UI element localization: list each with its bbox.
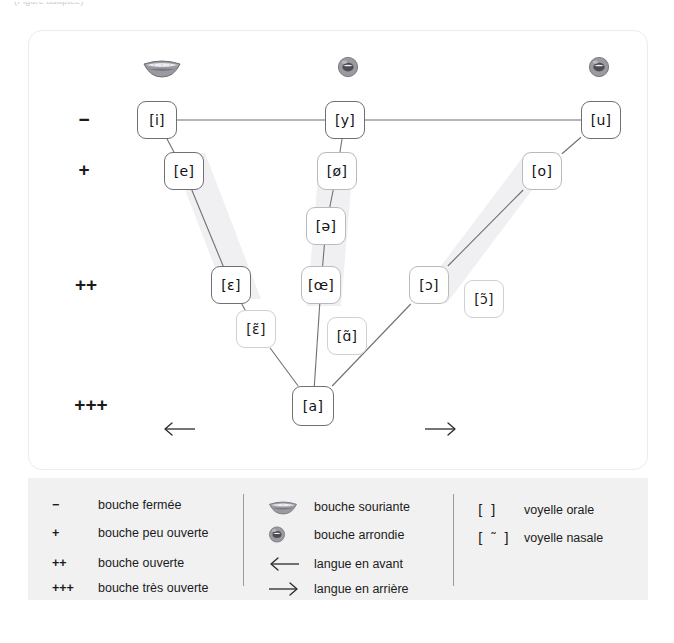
vowel-box[interactable]: [y]: [325, 101, 365, 139]
arrow-right-icon: [268, 581, 314, 597]
legend-row: +++bouche très ouverte: [52, 581, 209, 595]
legend-label: bouche arrondie: [314, 528, 404, 542]
legend-symbol: [ ]: [478, 502, 524, 518]
vowel-link-line: [192, 190, 223, 266]
legend-symbol: ++: [52, 556, 98, 570]
smiling-mouth-icon: [142, 56, 182, 82]
legend-divider: [453, 494, 454, 586]
legend-row: −bouche fermée: [52, 498, 181, 512]
cropped-header-text: (Figure adaptée): [14, 0, 84, 6]
aperture-label: +: [78, 160, 89, 179]
legend-panel: −bouche fermée+bouche peu ouverte++bouch…: [28, 478, 648, 600]
vowel-trapezoid-card: −++++++ [i][e][ɛ][ɛ̃][y][ø][ə][œ][ɑ̃][a]…: [28, 30, 648, 470]
vowel-link-line: [167, 139, 174, 152]
legend-label: bouche peu ouverte: [98, 526, 209, 540]
rounded-mouth-icon: [337, 57, 360, 82]
legend-label: langue en arrière: [314, 582, 409, 596]
vowel-link-line: [330, 190, 333, 207]
legend-row: +bouche peu ouverte: [52, 526, 209, 540]
vowel-box[interactable]: [ø]: [317, 152, 357, 190]
legend-label: bouche fermée: [98, 498, 181, 512]
vowel-link-line: [314, 304, 319, 386]
vowel-chart-page: (Figure adaptée) −++++++ [i][e][ɛ][ɛ: [0, 0, 674, 643]
vowel-link-line: [562, 137, 581, 153]
vowel-link-line: [340, 139, 342, 152]
legend-symbol: [ ˜ ]: [478, 530, 524, 546]
aperture-label: −: [78, 110, 89, 129]
vowel-box[interactable]: [ɛ]: [211, 266, 251, 304]
vowel-box[interactable]: [a]: [292, 386, 334, 426]
legend-row: [ ˜ ]voyelle nasale: [478, 530, 603, 546]
vowel-box[interactable]: [ɑ̃]: [327, 317, 367, 355]
legend-symbol: −: [52, 498, 98, 512]
vowel-link-line: [270, 348, 298, 386]
legend-row: bouche souriante: [268, 498, 410, 515]
smiling-mouth-icon: [268, 498, 314, 515]
legend-label: bouche très ouverte: [98, 581, 209, 595]
vowel-box[interactable]: [ɔ]: [409, 266, 449, 304]
arrow-left-icon: [268, 556, 314, 572]
vowel-box[interactable]: [ɛ̃]: [236, 310, 276, 348]
legend-symbol: +: [52, 526, 98, 540]
vowel-box[interactable]: [e]: [164, 152, 204, 190]
vowel-box[interactable]: [u]: [581, 101, 621, 139]
vowel-box[interactable]: [œ]: [301, 266, 341, 304]
legend-label: langue en avant: [314, 557, 403, 571]
aperture-label: +++: [74, 395, 107, 414]
legend-label: voyelle orale: [524, 503, 594, 517]
legend-label: voyelle nasale: [524, 531, 603, 545]
vowel-box[interactable]: [o]: [522, 152, 562, 190]
legend-label: bouche souriante: [314, 500, 410, 514]
legend-symbol: +++: [52, 581, 98, 595]
vowel-box[interactable]: [ɔ̃]: [464, 280, 504, 318]
aperture-label: ++: [75, 275, 97, 294]
vowel-box[interactable]: [i]: [137, 101, 177, 139]
vowel-link-line: [323, 245, 325, 266]
legend-row: langue en avant: [268, 556, 403, 572]
legend-divider: [243, 494, 244, 586]
legend-row: langue en arrière: [268, 581, 409, 597]
tongue-back-arrow: [424, 421, 458, 441]
vowel-link-line: [448, 190, 523, 266]
tongue-front-arrow: [162, 421, 196, 441]
vowel-link-layer: [29, 31, 649, 471]
rounded-mouth-icon: [268, 526, 314, 543]
vowel-chart-area: −++++++ [i][e][ɛ][ɛ̃][y][ø][ə][œ][ɑ̃][a]…: [29, 31, 649, 471]
legend-row: ++bouche ouverte: [52, 556, 184, 570]
legend-row: bouche arrondie: [268, 526, 404, 543]
legend-label: bouche ouverte: [98, 556, 184, 570]
vowel-box[interactable]: [ə]: [306, 207, 346, 245]
rounded-mouth-icon: [588, 57, 611, 82]
legend-row: [ ]voyelle orale: [478, 502, 594, 518]
